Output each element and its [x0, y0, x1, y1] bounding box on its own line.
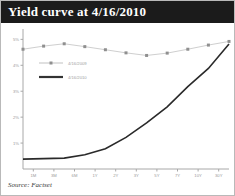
source-note: Source: Factset: [8, 181, 52, 189]
svg-text:1M: 1M: [30, 173, 36, 178]
svg-text:1%: 1%: [13, 141, 19, 146]
svg-text:5%: 5%: [13, 37, 19, 42]
svg-text:30Y: 30Y: [215, 173, 223, 178]
chart-title: Yield curve at 4/16/2010: [8, 4, 146, 20]
svg-text:4/16/2010: 4/16/2010: [68, 75, 87, 80]
yield-curve-svg: 5%4%3%2%1% 1M3M6M1Y2Y3Y5Y7Y10Y30Y 4/16/2…: [1, 23, 235, 196]
svg-text:10Y: 10Y: [194, 173, 202, 178]
svg-text:1Y: 1Y: [93, 173, 98, 178]
chart-card: Yield curve at 4/16/2010 5%4%3%2%1% 1M3M…: [0, 0, 235, 196]
svg-text:3Y: 3Y: [134, 173, 139, 178]
series-current-year: [23, 44, 229, 159]
svg-text:2%: 2%: [13, 115, 19, 120]
svg-text:7Y: 7Y: [175, 173, 180, 178]
svg-text:3%: 3%: [13, 89, 19, 94]
svg-text:6M: 6M: [72, 173, 78, 178]
chart-plot-area: 5%4%3%2%1% 1M3M6M1Y2Y3Y5Y7Y10Y30Y 4/16/2…: [1, 23, 235, 196]
svg-text:5Y: 5Y: [154, 173, 159, 178]
svg-text:3M: 3M: [51, 173, 57, 178]
x-axis-ticks: 1M3M6M1Y2Y3Y5Y7Y10Y30Y: [30, 169, 222, 178]
svg-text:4/16/2009: 4/16/2009: [68, 61, 87, 66]
y-axis-ticks: 5%4%3%2%1%: [13, 37, 23, 146]
series-previous-year: [22, 40, 231, 57]
chart-legend: 4/16/20094/16/2010: [39, 61, 87, 80]
chart-title-bar: Yield curve at 4/16/2010: [1, 1, 235, 23]
svg-text:4%: 4%: [13, 63, 19, 68]
svg-text:2Y: 2Y: [113, 173, 118, 178]
chart-axes: [23, 29, 229, 169]
